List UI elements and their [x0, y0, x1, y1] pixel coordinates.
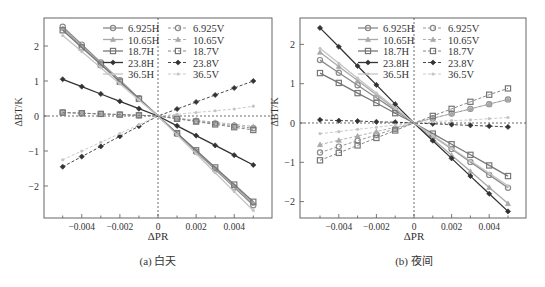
panel-a-xlabel: ΔPR [138, 230, 178, 242]
36.5H-marker-icon [195, 152, 198, 155]
6.925V-marker-icon [336, 144, 341, 149]
23.8H-marker-icon [194, 133, 199, 138]
legend-label: 6.925V [193, 23, 225, 34]
y-tick-label: −2 [28, 181, 39, 192]
23.8H-marker-icon [213, 143, 218, 148]
36.5V-marker-icon [450, 119, 453, 122]
panel-b-nighttime: −0.004−0.00200.0020.004−2−1012ΔBT/K6.925… [269, 18, 526, 232]
legend-label: 18.7V [193, 46, 219, 57]
legend-36.5V-marker-icon [176, 72, 179, 75]
23.8V-marker-icon [232, 85, 237, 90]
23.8V-marker-icon [355, 118, 360, 123]
legend-label: 18.7H [128, 46, 154, 57]
y-axis-label: ΔBT/K [269, 97, 280, 127]
legend-label: 18.7V [448, 46, 474, 57]
36.5V-marker-icon [356, 128, 359, 131]
18.7V-marker-icon [317, 158, 322, 163]
23.8V-marker-icon [60, 164, 65, 169]
y-tick-label: 1 [34, 76, 39, 87]
36.5H-marker-icon [394, 106, 397, 109]
legend-label: 23.8V [448, 58, 474, 69]
legend-23.8H-marker-icon [365, 60, 370, 65]
y-tick-label: −1 [284, 157, 295, 168]
18.7H-marker-icon [317, 70, 322, 75]
x-tick-label: −0.004 [68, 222, 95, 232]
23.8H-marker-icon [117, 99, 122, 104]
36.5V-marker-icon [337, 130, 340, 133]
legend-label: 23.8V [193, 58, 219, 69]
36.5V-marker-icon [233, 107, 236, 110]
legend-label: 6.925H [128, 23, 160, 34]
36.5H-marker-icon [252, 209, 255, 212]
y-tick-label: 2 [34, 41, 39, 52]
36.5H-marker-icon [118, 82, 121, 85]
36.5H-marker-icon [506, 184, 509, 187]
chart-canvas: −0.004−0.00200.0020.004−2−1012ΔBT/K6.925… [0, 0, 545, 287]
23.8H-marker-icon [60, 77, 65, 82]
23.8V-marker-icon [213, 92, 218, 97]
legend-label: 10.65V [448, 35, 480, 46]
legend-23.8V-marker-icon [175, 60, 180, 65]
36.5H-marker-icon [450, 147, 453, 150]
36.5H-marker-icon [356, 77, 359, 80]
legend: 6.925H10.65H18.7H23.8H36.5H6.925V10.65V1… [358, 23, 480, 80]
23.8V-marker-icon [336, 118, 341, 123]
23.8V-marker-icon [317, 117, 322, 122]
23.8H-marker-icon [136, 106, 141, 111]
36.5H-marker-icon [233, 190, 236, 193]
y-tick-label: 1 [290, 78, 295, 89]
23.8V-marker-icon [487, 124, 492, 129]
figure: −0.004−0.00200.0020.004−2−1012ΔBT/K6.925… [0, 0, 545, 287]
36.5V-marker-icon [469, 118, 472, 121]
36.5V-marker-icon [214, 109, 217, 112]
y-tick-label: 0 [34, 111, 39, 122]
36.5H-marker-icon [80, 50, 83, 53]
legend-label: 36.5H [383, 69, 409, 80]
legend-label: 18.7H [383, 46, 409, 57]
36.5H-marker-icon [318, 47, 321, 50]
legend-label: 23.8H [128, 58, 154, 69]
23.8H-marker-icon [232, 153, 237, 158]
23.8V-marker-icon [194, 99, 199, 104]
panel-b-caption: (b) 夜间 [364, 252, 464, 268]
legend-36.5H-marker-icon [111, 72, 114, 75]
23.8H-marker-icon [251, 162, 256, 167]
36.5H-marker-icon [175, 133, 178, 136]
36.5V-marker-icon [99, 141, 102, 144]
23.8V-marker-icon [468, 123, 473, 128]
36.5V-marker-icon [80, 149, 83, 152]
y-tick-label: −1 [28, 146, 39, 157]
legend-36.5H-marker-icon [366, 72, 369, 75]
plot-frame [300, 18, 526, 218]
36.5V-marker-icon [61, 158, 64, 161]
legend-label: 10.65H [128, 35, 160, 46]
36.5V-marker-icon [394, 123, 397, 126]
36.5H-marker-icon [431, 134, 434, 137]
x-tick-label: −0.002 [363, 222, 390, 232]
36.5V-marker-icon [137, 123, 140, 126]
panel-a-caption: (a) 白天 [108, 252, 208, 268]
23.8V-marker-icon [374, 119, 379, 124]
23.8V-marker-icon [251, 78, 256, 83]
y-axis-label: ΔBT/K [13, 97, 24, 127]
y-tick-label: −2 [284, 196, 295, 207]
legend-label: 10.65H [383, 35, 415, 46]
legend-label: 36.5V [448, 69, 474, 80]
legend-label: 6.925H [383, 23, 415, 34]
36.5V-marker-icon [506, 116, 509, 119]
legend: 6.925H10.65H18.7H23.8H36.5H6.925V10.65V1… [103, 23, 225, 80]
36.5H-marker-icon [61, 34, 64, 37]
legend-23.8V-marker-icon [430, 60, 435, 65]
x-tick-label: 0.004 [224, 222, 246, 232]
36.5H-marker-icon [375, 92, 378, 95]
x-tick-label: −0.004 [325, 222, 352, 232]
x-tick-label: 0.004 [479, 222, 501, 232]
36.5V-marker-icon [488, 117, 491, 120]
23.8H-marker-icon [98, 91, 103, 96]
36.5H-marker-icon [488, 172, 491, 175]
legend-23.8H-marker-icon [110, 60, 115, 65]
legend-label: 36.5H [128, 69, 154, 80]
36.5V-marker-icon [118, 132, 121, 135]
23.8V-marker-icon [505, 124, 510, 129]
23.8V-marker-icon [98, 144, 103, 149]
